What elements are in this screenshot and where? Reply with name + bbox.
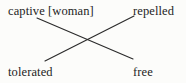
term-bottom-left: tolerated (8, 66, 53, 79)
term-top-left: captive [woman] (8, 5, 94, 18)
term-bottom-right: free (133, 66, 153, 79)
term-top-right: repelled (133, 5, 174, 18)
crossing-diagram: captive [woman] repelled tolerated free (0, 0, 186, 83)
